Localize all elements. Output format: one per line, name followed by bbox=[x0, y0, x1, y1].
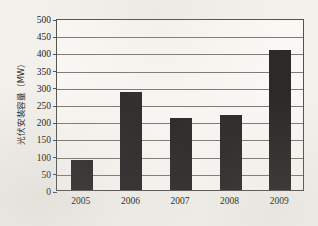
bar-2007 bbox=[170, 118, 192, 190]
x-axis-tick-label-2006: 2006 bbox=[106, 194, 156, 208]
y-axis-tick-mark bbox=[53, 192, 57, 193]
bar-slot bbox=[170, 20, 192, 190]
y-axis-tick: 150 bbox=[29, 134, 57, 146]
bar-2008 bbox=[220, 115, 242, 190]
y-axis-title: 光伏安装容量（MW） bbox=[14, 46, 28, 158]
y-axis-tick-label: 350 bbox=[37, 66, 51, 78]
y-axis-tick: 0 bbox=[29, 186, 57, 198]
y-axis-tick: 50 bbox=[29, 169, 57, 181]
bar-2009 bbox=[269, 50, 291, 190]
y-axis-tick: 500 bbox=[29, 14, 57, 26]
y-axis-tick-label: 250 bbox=[37, 100, 51, 112]
bar-2005 bbox=[71, 160, 93, 190]
plot-area: 500450400350300250200150100500 bbox=[56, 19, 304, 191]
y-axis-tick: 300 bbox=[29, 83, 57, 95]
y-axis-tick-label: 400 bbox=[37, 48, 51, 60]
bar-slot bbox=[269, 20, 291, 190]
pv-installed-capacity-bar-chart: 光伏安装容量（MW） 50045040035030025020015010050… bbox=[0, 0, 318, 226]
bar-slot bbox=[220, 20, 242, 190]
y-axis-tick-label: 300 bbox=[37, 83, 51, 95]
y-axis-tick: 100 bbox=[29, 152, 57, 164]
x-axis-tick-label-2008: 2008 bbox=[205, 194, 255, 208]
bar-2006 bbox=[120, 92, 142, 190]
y-axis-tick-label: 450 bbox=[37, 31, 51, 43]
y-axis-tick-label: 200 bbox=[37, 117, 51, 129]
y-axis-tick: 200 bbox=[29, 117, 57, 129]
y-axis-tick: 400 bbox=[29, 48, 57, 60]
y-axis-tick: 250 bbox=[29, 100, 57, 112]
bar-slot bbox=[71, 20, 93, 190]
bar-slot bbox=[120, 20, 142, 190]
x-axis-tick-labels-group: 20052006200720082009 bbox=[56, 194, 304, 208]
y-axis-tick-label: 150 bbox=[37, 134, 51, 146]
y-axis-tick-label: 0 bbox=[46, 186, 51, 198]
y-axis-tick: 350 bbox=[29, 66, 57, 78]
y-axis-tick: 450 bbox=[29, 31, 57, 43]
x-axis-tick-label-2005: 2005 bbox=[56, 194, 106, 208]
y-axis-tick-label: 500 bbox=[37, 14, 51, 26]
x-axis-tick-label-2009: 2009 bbox=[254, 194, 304, 208]
y-axis-tick-label: 100 bbox=[37, 152, 51, 164]
y-axis-tick-label: 50 bbox=[42, 169, 52, 181]
bars-group bbox=[57, 20, 303, 190]
x-axis-tick-label-2007: 2007 bbox=[155, 194, 205, 208]
